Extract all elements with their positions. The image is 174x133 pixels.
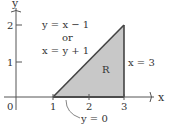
bottom-edge-eq: y = 0 <box>80 113 108 124</box>
y-tick-label-1: 1 <box>7 57 13 68</box>
x-tick-label-2: 2 <box>86 101 92 112</box>
origin-label: 0 <box>7 101 13 112</box>
region-diagram: y x 0 1 2 3 1 2 R y = x − 1 or x = y + 1… <box>0 0 174 133</box>
y-axis-label: y <box>11 0 19 10</box>
region-label: R <box>102 64 110 75</box>
bottom-edge-pointer <box>66 100 80 118</box>
x-tick-label-3: 3 <box>121 101 127 112</box>
x-axis-label: x <box>158 91 165 104</box>
hypotenuse-eq-2: x = y + 1 <box>42 45 89 56</box>
right-edge-eq: x = 3 <box>128 57 155 68</box>
y-tick-label-2: 2 <box>7 20 13 31</box>
hypotenuse-eq-or: or <box>62 32 73 43</box>
hypotenuse-eq-1: y = x − 1 <box>41 19 89 30</box>
diagram-canvas: y x 0 1 2 3 1 2 R y = x − 1 or x = y + 1… <box>0 0 174 133</box>
x-tick-label-1: 1 <box>50 101 56 112</box>
